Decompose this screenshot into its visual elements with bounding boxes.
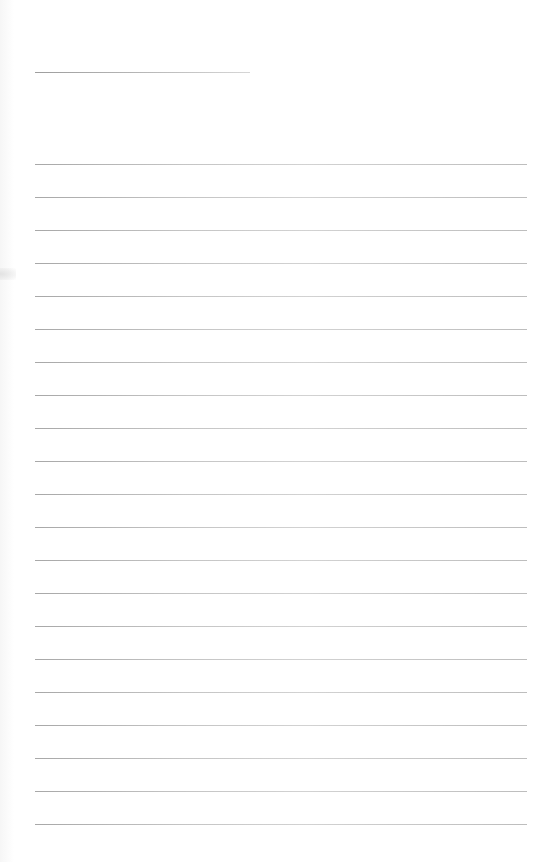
writing-line <box>35 494 527 495</box>
writing-line <box>35 626 527 627</box>
writing-line <box>35 593 527 594</box>
writing-line <box>35 197 527 198</box>
writing-line <box>35 659 527 660</box>
writing-line <box>35 395 527 396</box>
writing-line <box>35 164 527 165</box>
scan-smudge <box>0 268 16 280</box>
writing-line <box>35 296 527 297</box>
lined-paper-sheet <box>0 0 538 862</box>
writing-line <box>35 527 527 528</box>
writing-line <box>35 428 527 429</box>
writing-line <box>35 725 527 726</box>
scan-edge-shadow <box>0 0 14 862</box>
writing-line <box>35 362 527 363</box>
writing-line <box>35 560 527 561</box>
writing-line <box>35 461 527 462</box>
writing-line <box>35 263 527 264</box>
writing-line <box>35 329 527 330</box>
header-rule <box>35 72 250 73</box>
writing-line <box>35 692 527 693</box>
writing-line <box>35 791 527 792</box>
writing-line <box>35 230 527 231</box>
writing-line <box>35 758 527 759</box>
writing-line <box>35 824 527 825</box>
